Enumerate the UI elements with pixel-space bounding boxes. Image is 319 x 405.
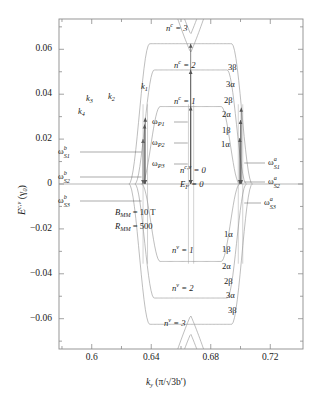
omega-b-S2: ωbS2	[58, 172, 73, 181]
omega-a-S1: ωaS1	[268, 158, 283, 167]
x-tick-label: 0.6	[70, 353, 114, 363]
param-r-mm: RMM = 500	[115, 222, 153, 231]
transition-label-upper-6: 1α	[221, 140, 230, 149]
x-tick-label: 0.68	[189, 353, 233, 363]
omega-a-S3: ωaS3	[264, 198, 279, 207]
k-marker-1: k1	[141, 82, 148, 91]
transition-label-upper-1: 3β	[228, 63, 237, 72]
y-axis-title-main: E	[16, 209, 27, 215]
omega-b-S3: ωbS3	[58, 196, 73, 205]
y-axis-title-sup: c,v	[15, 202, 22, 209]
x-axis-title-sub: y	[150, 381, 153, 388]
y-tick-label: 0.04	[8, 89, 52, 99]
y-tick-label: 0	[8, 179, 52, 189]
y-tick-label: −0.04	[8, 269, 52, 279]
y-tick-label: 0.06	[8, 44, 52, 54]
omega-b-S1: ωbS1	[58, 147, 73, 156]
y-axis-title-units-sub: 0	[21, 189, 28, 192]
x-axis-title-units: (π/√3b′)	[155, 377, 186, 387]
level-label-valence-3: nv = 3	[164, 319, 185, 328]
param-b-mm: BMM = 10 T	[115, 208, 156, 217]
transition-label-upper-4: 2α	[222, 110, 231, 119]
level-label-zero: nc,v = 0	[180, 166, 206, 175]
k-marker-2: k2	[108, 92, 115, 101]
transition-label-lower-2: 1β	[222, 245, 231, 254]
x-tick-label: 0.72	[248, 353, 292, 363]
y-axis-title: Ec,v (γ0)	[16, 185, 27, 215]
transition-label-upper-5: 1β	[222, 126, 231, 135]
y-axis-title-units: (γ	[16, 192, 27, 200]
omega-P1: ωP1	[152, 117, 165, 126]
x-axis-title: ky (π/√3b′)	[146, 378, 186, 388]
fermi-level-label: EF = 0	[180, 180, 203, 189]
level-label-valence-2: nv = 2	[172, 284, 193, 293]
transition-label-upper-3: 2β	[224, 96, 233, 105]
transition-label-lower-3: 2α	[222, 262, 231, 271]
transition-label-lower-5: 3α	[226, 291, 235, 300]
transition-label-lower-1: 1α	[224, 230, 233, 239]
omega-P2: ωP2	[152, 138, 165, 147]
k-marker-3: k3	[86, 94, 93, 103]
y-tick-label: −0.06	[8, 314, 52, 324]
x-tick-label: 0.64	[129, 353, 173, 363]
transition-label-lower-6: 3β	[228, 306, 237, 315]
omega-a-S2: ωaS2	[268, 177, 283, 186]
transition-label-upper-2: 3α	[226, 80, 235, 89]
level-label-conduction-1: nc = 3	[166, 24, 187, 33]
y-tick-label: −0.02	[8, 224, 52, 234]
level-label-conduction-3: nc = 1	[174, 97, 195, 106]
y-tick-label: 0.02	[8, 134, 52, 144]
level-label-valence-1: nv = 1	[172, 246, 193, 255]
k-marker-4: k4	[78, 107, 85, 116]
omega-P3: ωP3	[152, 159, 165, 168]
figure-root: 0.060.040.020−0.02−0.04−0.06 0.60.640.68…	[0, 0, 319, 405]
level-label-conduction-2: nc = 2	[174, 61, 195, 70]
transition-label-lower-4: 2β	[224, 277, 233, 286]
